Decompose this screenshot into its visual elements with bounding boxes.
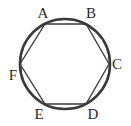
vertex-label-a: A — [38, 5, 49, 21]
vertex-label-b: B — [86, 5, 96, 21]
diagram-canvas: A B C D E F — [0, 0, 131, 126]
circumscribed-circle — [20, 19, 110, 109]
hexagon-in-circle-diagram: A B C D E F — [0, 0, 131, 126]
vertex-label-d: D — [88, 106, 99, 122]
vertex-label-f: F — [9, 67, 17, 83]
vertex-label-e: E — [34, 106, 43, 122]
regular-hexagon — [20, 24, 109, 104]
vertex-label-c: C — [112, 56, 122, 72]
